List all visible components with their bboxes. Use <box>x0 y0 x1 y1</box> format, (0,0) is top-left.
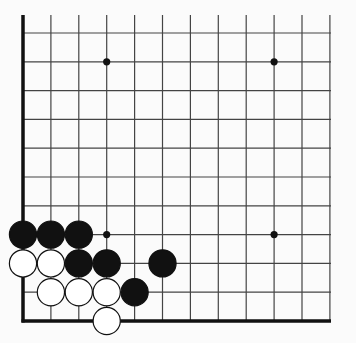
white-stone[interactable] <box>93 307 120 334</box>
black-stone[interactable] <box>93 250 120 277</box>
black-stone[interactable] <box>121 279 148 306</box>
black-stone[interactable] <box>65 221 92 248</box>
white-stone[interactable] <box>9 250 36 277</box>
white-stone[interactable] <box>93 279 120 306</box>
board-grid <box>22 15 332 323</box>
white-stone[interactable] <box>37 250 64 277</box>
black-stone[interactable] <box>9 221 36 248</box>
white-stone[interactable] <box>65 279 92 306</box>
black-stone[interactable] <box>37 221 64 248</box>
stones <box>9 221 176 335</box>
black-stone[interactable] <box>149 250 176 277</box>
star-point-icon <box>103 231 110 238</box>
go-board[interactable] <box>0 0 356 343</box>
black-stone[interactable] <box>65 250 92 277</box>
star-point-icon <box>271 58 278 65</box>
star-point-icon <box>271 231 278 238</box>
white-stone[interactable] <box>37 279 64 306</box>
star-point-icon <box>103 58 110 65</box>
